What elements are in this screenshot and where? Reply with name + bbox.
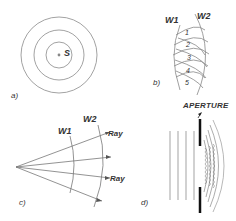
panel-label-a: a) — [11, 92, 18, 100]
point-label-4: 4 — [186, 67, 190, 74]
wavefront-label-w1-c: W1 — [58, 127, 72, 136]
wave-diagram — [0, 0, 236, 221]
ray-label-top: Ray — [108, 130, 123, 138]
ray-label-bottom: Ray — [110, 175, 125, 183]
point-source-icon — [58, 54, 61, 57]
wavefront-label-w1: W1 — [165, 16, 179, 25]
point-label-5: 5 — [185, 79, 189, 86]
point-label-2: 2 — [186, 41, 190, 48]
wavefront-label-w2-c: W2 — [83, 115, 97, 124]
wavefront-label-w2: W2 — [197, 12, 211, 21]
panel-label-b: b) — [153, 79, 160, 87]
aperture-pointer-icon — [198, 112, 202, 118]
panel-label-c: c) — [19, 199, 26, 207]
arrowheads — [96, 132, 111, 202]
source-label: S — [64, 49, 70, 58]
panel-c — [16, 125, 111, 207]
panel-b-wavefronts — [173, 14, 209, 95]
aperture-label: APERTURE — [183, 102, 228, 110]
panel-d-plane-waves — [170, 131, 194, 200]
panel-label-d: d) — [141, 199, 148, 207]
point-label-1: 1 — [185, 29, 189, 36]
point-label-3: 3 — [187, 54, 191, 61]
panel-d-diffracted-waves — [204, 120, 224, 212]
